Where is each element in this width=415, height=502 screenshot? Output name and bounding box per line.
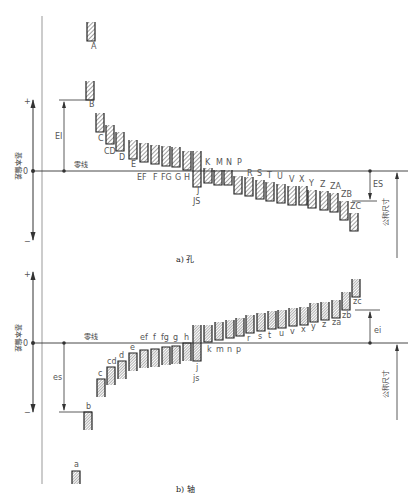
bar-label: u — [279, 329, 284, 338]
deviation-bar-B: B — [86, 81, 95, 109]
bar-hatch — [352, 279, 360, 297]
bar-label: Z — [320, 180, 326, 189]
shaft-ei-label: ei — [374, 326, 381, 335]
bar-label: P — [237, 158, 242, 167]
deviation-bar-K: K — [204, 158, 212, 183]
hole-caption: a) 孔 — [176, 255, 194, 264]
shaft-js-label: js — [192, 374, 199, 383]
bar-label: j — [195, 363, 198, 372]
bar-hatch — [107, 367, 115, 385]
bar-hatch — [257, 313, 265, 331]
bar-label: k — [207, 345, 212, 354]
bar-hatch — [214, 170, 222, 185]
bar-hatch — [162, 146, 170, 166]
bar-label: c — [98, 369, 102, 378]
deviation-bar-r: r — [246, 315, 254, 343]
hole-es-label: ES — [373, 180, 383, 189]
bar-label: A — [91, 42, 97, 51]
bar-label: cd — [107, 357, 116, 366]
shaft-ei-origin — [368, 341, 372, 345]
deviation-bar-FG: FG — [161, 146, 172, 182]
deviation-bar-ZC: ZC — [350, 202, 361, 231]
hole-ei-arrow — [62, 101, 66, 108]
deviation-bar-EF: EF — [137, 143, 148, 182]
bar-label: K — [205, 158, 211, 167]
shaft-deviation-bars: abccddeefffgghjkmnprstuvxyzzazbzc — [72, 279, 362, 484]
bar-hatch — [310, 303, 318, 322]
bar-label: b — [86, 402, 91, 411]
deviation-bar-y: y — [310, 303, 318, 331]
bar-label: p — [236, 345, 241, 354]
shaft-es-arrow — [62, 404, 66, 411]
deviation-bar-zc: zc — [352, 279, 362, 306]
deviation-bar-g: g — [172, 333, 180, 364]
deviation-bar-j: j — [193, 325, 201, 372]
deviation-bar-a: a — [72, 460, 80, 484]
bar-label: f — [153, 333, 156, 342]
bar-hatch — [183, 343, 191, 361]
deviation-bar-M: M — [214, 158, 223, 185]
bar-label: CD — [104, 147, 116, 156]
bar-hatch — [277, 184, 285, 203]
bar-hatch — [266, 182, 274, 201]
deviation-bar-T: T — [266, 171, 274, 201]
hole-nominal-size-label: 公称尺寸 — [381, 198, 390, 226]
bar-label: M — [216, 158, 223, 167]
bar-label: x — [301, 325, 306, 334]
hole-es-arrow — [368, 193, 372, 200]
bar-hatch — [204, 168, 212, 183]
bar-hatch — [245, 177, 253, 196]
bar-hatch — [118, 361, 126, 379]
deviation-bar-p: p — [236, 318, 244, 354]
hole-es-origin — [368, 169, 372, 173]
deviation-bar-P: P — [234, 158, 242, 194]
deviation-bar-Y: Y — [308, 179, 316, 208]
bar-label: X — [299, 175, 305, 184]
bar-label: m — [216, 345, 224, 354]
deviation-bar-U: U — [277, 172, 285, 203]
bar-label: h — [184, 333, 189, 342]
hole-axis-arrow-up — [31, 99, 36, 108]
deviation-bar-D: D — [116, 132, 125, 162]
bar-label: ZA — [330, 182, 341, 191]
bar-hatch — [289, 308, 297, 326]
bar-label: ef — [140, 333, 148, 342]
bar-label: t — [268, 331, 271, 340]
bar-label: d — [119, 351, 124, 360]
bar-hatch — [97, 379, 105, 397]
bar-hatch — [268, 311, 276, 329]
deviation-bar-G: G — [172, 147, 181, 182]
deviation-bar-X: X — [299, 175, 307, 205]
hole-ei-label: EI — [55, 132, 62, 141]
bar-hatch — [330, 193, 338, 212]
bar-label: ZB — [341, 190, 352, 199]
bar-label: fg — [161, 333, 169, 342]
bar-hatch — [308, 190, 316, 208]
bar-hatch — [172, 346, 180, 364]
shaft-zero-line-label: 零线 — [84, 332, 98, 341]
bar-label: a — [74, 460, 79, 469]
deviation-bar-J: J — [193, 151, 201, 195]
shaft-zero-mark: 0 — [23, 339, 28, 348]
shaft-nominal-arrow — [395, 344, 399, 351]
bar-hatch — [106, 125, 114, 144]
bar-hatch — [236, 318, 244, 336]
bar-hatch — [340, 201, 348, 220]
deviation-bar-d: d — [118, 351, 126, 379]
bar-label: C — [98, 134, 104, 143]
bar-hatch — [193, 151, 201, 187]
bar-hatch — [193, 325, 201, 361]
bar-hatch — [246, 315, 254, 333]
hole-panel: + − 0 基本偏差 零线 EI ES 公称尺寸 ABCCDDEEFFFGGHJ… — [14, 22, 408, 264]
deviation-bar-S: S — [256, 169, 264, 199]
deviation-bar-ef: ef — [140, 333, 148, 368]
bar-hatch — [224, 170, 232, 185]
bar-label: V — [289, 175, 295, 184]
shaft-panel: + − 0 基本偏差 零线 es ei 公称尺寸 abccddeefffgghj… — [14, 270, 408, 494]
bar-hatch — [342, 292, 350, 310]
bar-label: D — [119, 153, 125, 162]
bar-label: ZC — [350, 202, 361, 211]
bar-hatch — [332, 300, 340, 318]
shaft-es-label: es — [53, 373, 62, 382]
bar-label: H — [184, 173, 190, 182]
